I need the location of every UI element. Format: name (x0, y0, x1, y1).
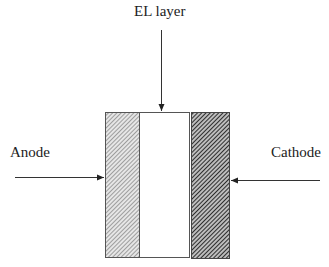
el-layer (140, 113, 190, 258)
oled-structure-diagram (0, 0, 329, 267)
anode-layer (106, 113, 140, 258)
cathode-layer (192, 113, 230, 259)
